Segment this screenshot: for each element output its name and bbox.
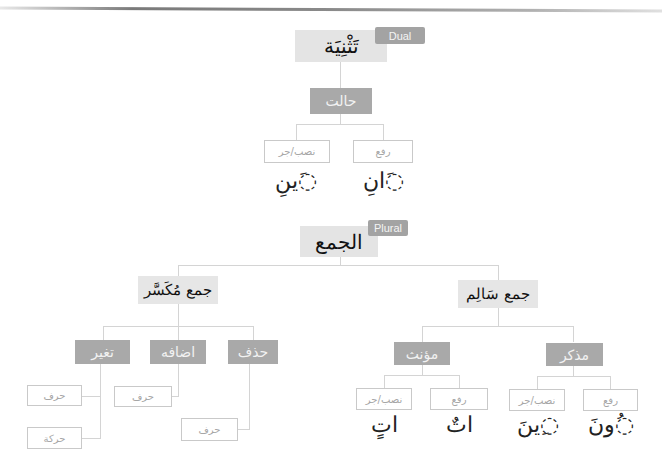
connector (172, 396, 179, 397)
connector (100, 364, 101, 439)
connector (573, 366, 574, 376)
header-divider (0, 7, 662, 13)
feminine-case-raf-box: رفع (430, 388, 488, 410)
broken-addition-box: اضافه (150, 340, 206, 364)
masculine-ending-raf: ◌ُونَ (586, 412, 636, 437)
connector (422, 326, 423, 342)
plural-tag: Plural (368, 220, 408, 236)
connector (422, 326, 574, 327)
connector (384, 375, 460, 376)
sound-plural-box: جمع سَالِم (458, 280, 538, 308)
dual-state-box: حالت (310, 88, 372, 114)
connector (498, 308, 499, 326)
broken-deletion-box: حذف (228, 340, 278, 364)
connector (610, 376, 611, 389)
connector (340, 257, 341, 265)
masculine-case-raf-box: رفع (583, 389, 638, 411)
connector (82, 396, 100, 397)
plural-title-box: الجمع (300, 226, 378, 257)
masculine-ending-nasb: ◌ِينَ (512, 412, 564, 437)
feminine-case-nasb-box: نصب/جر (356, 388, 412, 410)
connector (296, 124, 384, 125)
masculine-case-nasb-box: نصب/جر (509, 389, 565, 411)
dual-case-nasb-box: نصب/جر (264, 140, 330, 163)
connector (340, 114, 341, 124)
connector (249, 364, 250, 430)
connector (537, 376, 611, 377)
connector (178, 326, 179, 340)
broken-change-box: تغير (75, 340, 130, 364)
broken-change-letter-box: حرف (27, 385, 82, 406)
broken-plural-box: جمع مُكَسَّر (138, 276, 218, 304)
connector (573, 326, 574, 342)
connector (537, 376, 538, 389)
feminine-ending-nasb: اتٍ (360, 412, 408, 437)
dual-tag: Dual (375, 27, 425, 44)
connector (238, 429, 250, 430)
connector (103, 326, 104, 340)
sound-masculine-box: مذكر (546, 343, 603, 366)
connector (422, 365, 423, 375)
broken-deletion-letter-box: حرف (181, 418, 238, 441)
dual-state-label: حالت (326, 93, 357, 109)
broken-addition-letter-box: حرف (114, 386, 172, 407)
connector (253, 326, 254, 340)
connector (340, 62, 341, 88)
connector (498, 265, 499, 280)
connector (459, 375, 460, 388)
dual-title: تَثْنِيَة (324, 34, 359, 58)
broken-change-vowel-box: حركة (27, 427, 82, 449)
connector (178, 304, 179, 326)
connector (384, 375, 385, 388)
plural-title: الجمع (315, 230, 363, 254)
connector (178, 265, 498, 266)
dual-case-raf-box: رفع (353, 140, 413, 163)
feminine-ending-raf: اتٌ (434, 412, 484, 437)
dual-ending-raf: ◌َانِ (358, 168, 408, 193)
dual-title-box: تَثْنِيَة (295, 30, 387, 62)
connector (178, 364, 179, 396)
connector (82, 438, 100, 439)
connector (296, 124, 297, 140)
sound-feminine-box: مؤنث (394, 342, 450, 365)
dual-ending-nasb: ◌َينِ (268, 168, 324, 193)
connector (383, 124, 384, 140)
